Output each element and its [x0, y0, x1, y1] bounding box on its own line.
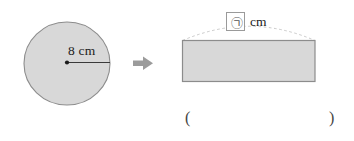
dashed-arc — [183, 26, 316, 40]
answer-symbol-box[interactable]: ㉠ — [226, 12, 245, 31]
circled-giyeok-icon: ㉠ — [227, 13, 246, 32]
radius-label: 8 cm — [68, 44, 95, 58]
geometry-figure: 8 cm ㉠ cm ( ) — [0, 0, 354, 141]
figure-canvas — [0, 0, 354, 141]
circle-center-dot — [65, 60, 69, 64]
rectangle-shape — [183, 41, 316, 82]
answer-paren-open: ( — [185, 110, 190, 126]
arrow-right-icon — [133, 57, 153, 71]
answer-paren-close: ) — [329, 110, 334, 126]
unit-label: cm — [250, 15, 267, 29]
